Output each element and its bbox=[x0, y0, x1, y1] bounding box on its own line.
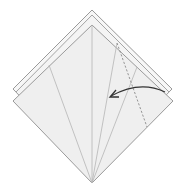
diagram-canvas bbox=[0, 0, 185, 191]
origami-diagram bbox=[0, 0, 185, 191]
front-layer bbox=[13, 25, 173, 183]
